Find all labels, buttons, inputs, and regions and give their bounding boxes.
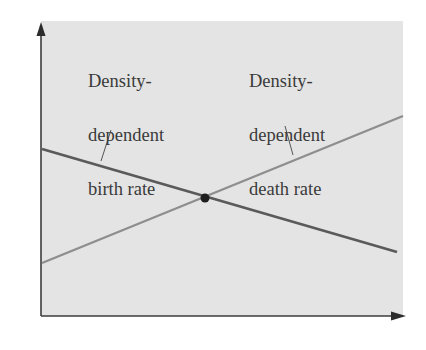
birth-label-line-2: dependent bbox=[88, 126, 164, 144]
death-label-line-1: Density- bbox=[249, 72, 325, 90]
birth-label-line-1: Density- bbox=[88, 72, 164, 90]
death-label-line-3: death rate bbox=[249, 180, 325, 198]
death-label-line-2: dependent bbox=[249, 126, 325, 144]
birth-rate-label: Density- dependent birth rate bbox=[88, 36, 164, 234]
birth-label-line-3: birth rate bbox=[88, 180, 164, 198]
plot-graphics bbox=[0, 0, 426, 350]
density-dependence-diagram: Density- dependent birth rate Density- d… bbox=[0, 0, 426, 350]
y-axis-arrow-icon bbox=[37, 22, 46, 36]
x-axis-arrow-icon bbox=[391, 312, 406, 321]
death-rate-label: Density- dependent death rate bbox=[249, 36, 325, 234]
equilibrium-point bbox=[201, 194, 210, 203]
